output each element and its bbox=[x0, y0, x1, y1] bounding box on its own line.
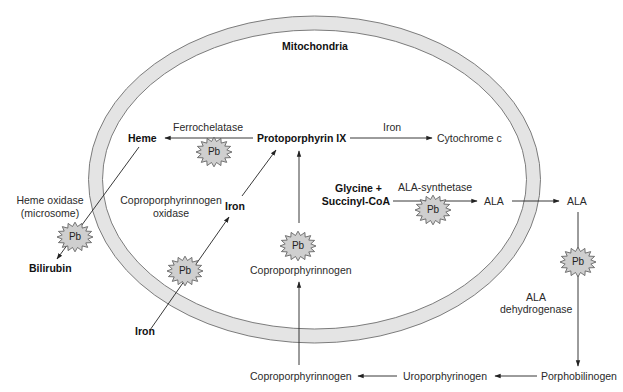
node-cytochrome-c: Cytochrome c bbox=[437, 132, 502, 144]
node-bilirubin: Bilirubin bbox=[29, 262, 72, 274]
lead-inhibitor-label-ala-dehydrogenase: Pb bbox=[563, 256, 593, 268]
lead-inhibitor-label-ferrochelatase: Pb bbox=[199, 146, 229, 158]
arrow-iron-to-protoporphyrin bbox=[242, 150, 276, 196]
node-iron-cytosolic: Iron bbox=[135, 325, 155, 337]
node-coproporphyrinnogen-cytosolic: Coproporphyrinnogen bbox=[250, 370, 352, 382]
node-ala-mitochondrial: ALA bbox=[484, 195, 504, 207]
enzyme-ala-dehydrogenase-line1: ALA bbox=[500, 291, 572, 303]
heme-synthesis-diagram: Mitochondria Heme Protoporphyrin IX Cyto… bbox=[0, 0, 623, 392]
enzyme-ala-dehydrogenase-line2: dehydrogenase bbox=[500, 303, 572, 315]
enzyme-heme-oxidase-line2: (microsome) bbox=[10, 207, 90, 219]
node-protoporphyrin-ix: Protoporphyrin IX bbox=[257, 132, 346, 144]
enzyme-copro-oxidase-line1: Coproporphyrinnogen bbox=[116, 194, 226, 206]
node-heme: Heme bbox=[128, 132, 157, 144]
cofactor-iron-label: Iron bbox=[383, 121, 401, 133]
node-porphobilinogen: Porphobilinogen bbox=[541, 370, 617, 382]
mitochondria-title: Mitochondria bbox=[282, 40, 348, 52]
node-glycine: Glycine + bbox=[320, 182, 382, 194]
mitochondrial-membrane bbox=[89, 16, 541, 343]
node-ala-cytosolic: ALA bbox=[567, 195, 587, 207]
lead-inhibitor-label-ala-synthetase: Pb bbox=[418, 204, 448, 216]
node-succinyl-coa: Succinyl-CoA bbox=[310, 195, 390, 207]
lead-inhibitor-label-iron-transport: Pb bbox=[170, 265, 200, 277]
lead-inhibitor-label-heme-oxidase: Pb bbox=[60, 231, 90, 243]
enzyme-ferrochelatase: Ferrochelatase bbox=[173, 121, 243, 133]
enzyme-copro-oxidase-line2: oxidase bbox=[116, 207, 226, 219]
node-uroporphyrinogen: Uroporphyrinogen bbox=[403, 370, 487, 382]
lead-inhibitor-label-copro-oxidase: Pb bbox=[283, 240, 313, 252]
enzyme-heme-oxidase-line1: Heme oxidase bbox=[10, 194, 90, 206]
node-coproporphyrinnogen-mitochondrial: Coproporphyrinnogen bbox=[250, 264, 352, 276]
enzyme-ala-synthetase: ALA-synthetase bbox=[398, 181, 472, 193]
node-iron-mitochondrial: Iron bbox=[225, 200, 245, 212]
